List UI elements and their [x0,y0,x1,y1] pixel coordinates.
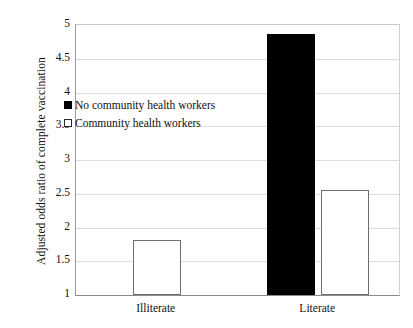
x-axis-category-label: Illiterate [75,302,237,314]
y-axis-tick-label: 3 [30,153,70,165]
legend-hollow-square-icon [64,119,72,127]
y-axis-tick-labels: 54.543.532.521.51 [26,0,70,328]
legend-item-label: Community health workers [75,117,201,129]
y-axis-tick-label: 1 [30,288,70,300]
bar-chart: Adjusted odds ratio of complete vaccinat… [0,0,413,328]
x-axis-category-label: Literate [237,302,399,314]
y-axis-tick-label: 4 [30,86,70,98]
y-axis-tick-label: 2 [30,221,70,233]
legend-item: No community health workers [64,99,215,111]
gridline [76,59,399,60]
gridline [76,93,399,94]
y-axis-tick-label: 1.5 [30,254,70,266]
bar [133,240,181,295]
y-axis-tick-label: 2.5 [30,187,70,199]
y-axis-tick-label: 4.5 [30,52,70,64]
bar [321,190,369,295]
legend-item-label: No community health workers [75,99,215,111]
chart-legend: No community health workersCommunity hea… [64,99,215,129]
legend-filled-square-icon [64,101,72,109]
bar [267,34,315,295]
y-axis-tick-label: 5 [30,18,70,30]
legend-item: Community health workers [64,117,215,129]
gridline [76,160,399,161]
plot-area [75,24,400,296]
